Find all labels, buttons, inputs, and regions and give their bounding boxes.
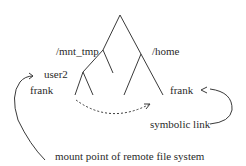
label-symbolic-link: symbolic link xyxy=(150,118,210,130)
edge-root-mnt-tmp xyxy=(103,15,120,50)
edge-user2-frank xyxy=(75,72,83,95)
label-frank-left: frank xyxy=(30,84,53,96)
label-user2: user2 xyxy=(44,68,68,80)
symlink-label-curve xyxy=(210,89,232,124)
label-home: /home xyxy=(152,45,180,57)
symlink-label-arrowhead xyxy=(201,87,207,93)
edge-home-child xyxy=(124,54,141,95)
label-frank-right: frank xyxy=(170,84,193,96)
edge-mnt-tmp-child xyxy=(103,50,113,73)
symbolic-link-dashed-arrow xyxy=(76,100,150,114)
tree-diagram xyxy=(0,0,246,166)
label-mount-point: mount point of remote file system xyxy=(55,150,204,162)
edge-user2-child xyxy=(83,72,93,95)
label-mnt-tmp: /mnt_tmp xyxy=(56,45,99,57)
